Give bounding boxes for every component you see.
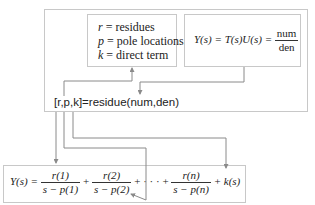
arrow-k-to-direct-term	[73, 112, 226, 168]
connector-arrows	[0, 0, 315, 205]
arrow-command-to-definitions	[64, 68, 132, 96]
arrow-transfer-function-to-command	[140, 67, 244, 94]
arrow-p-to-term2	[64, 112, 146, 200]
